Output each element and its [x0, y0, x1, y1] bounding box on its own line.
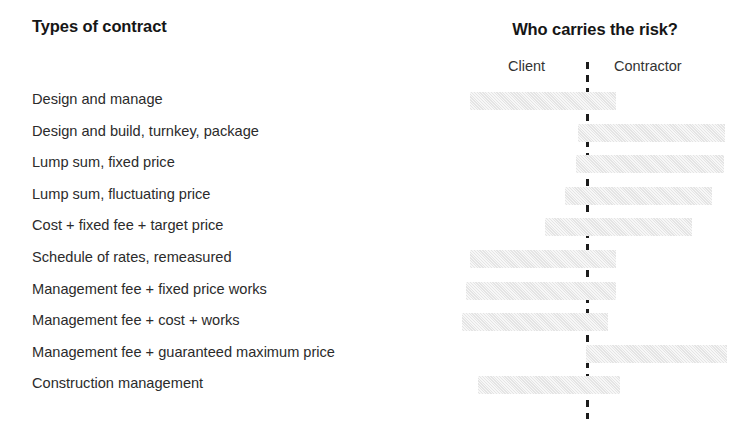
risk-span-bar [470, 250, 616, 268]
legend-label-contractor: Contractor [614, 58, 682, 74]
risk-midpoint-divider [586, 62, 589, 419]
risk-span-bar [545, 218, 692, 236]
risk-span-bar [466, 282, 616, 300]
page-title-types-of-contract: Types of contract [32, 17, 167, 36]
chart-canvas: Types of contract Who carries the risk? … [0, 0, 752, 440]
contract-type-label: Schedule of rates, remeasured [32, 249, 232, 265]
risk-span-bar [586, 345, 727, 363]
contract-type-label: Construction management [32, 375, 203, 391]
contract-type-label: Management fee + fixed price works [32, 281, 267, 297]
contract-type-label: Lump sum, fixed price [32, 154, 175, 170]
risk-span-bar [478, 376, 620, 394]
contract-type-label: Lump sum, fluctuating price [32, 186, 210, 202]
contract-type-label: Design and manage [32, 91, 163, 107]
contract-type-label: Management fee + cost + works [32, 312, 240, 328]
risk-span-bar [578, 124, 725, 142]
legend-label-client: Client [508, 58, 545, 74]
risk-span-bar [462, 313, 608, 331]
risk-span-bar [565, 187, 712, 205]
contract-type-label: Management fee + guaranteed maximum pric… [32, 344, 335, 360]
chart-title-who-carries-the-risk: Who carries the risk? [488, 20, 702, 39]
contract-type-label: Cost + fixed fee + target price [32, 217, 223, 233]
contract-type-label: Design and build, turnkey, package [32, 123, 259, 139]
risk-span-bar [576, 155, 724, 173]
risk-span-bar [470, 92, 616, 110]
